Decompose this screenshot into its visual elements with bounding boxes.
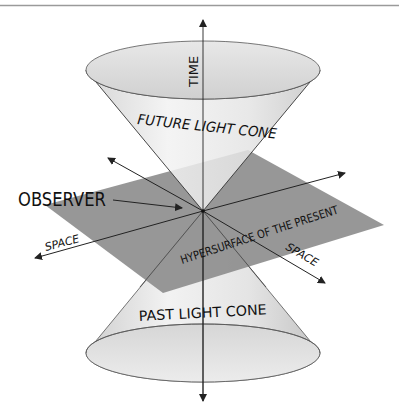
light-cone-diagram: TIME FUTURE LIGHT CONE PAST LIGHT CONE O… [0, 0, 399, 418]
observer-point [201, 209, 205, 213]
time-label: TIME [186, 56, 201, 88]
observer-label: OBSERVER [18, 188, 106, 210]
